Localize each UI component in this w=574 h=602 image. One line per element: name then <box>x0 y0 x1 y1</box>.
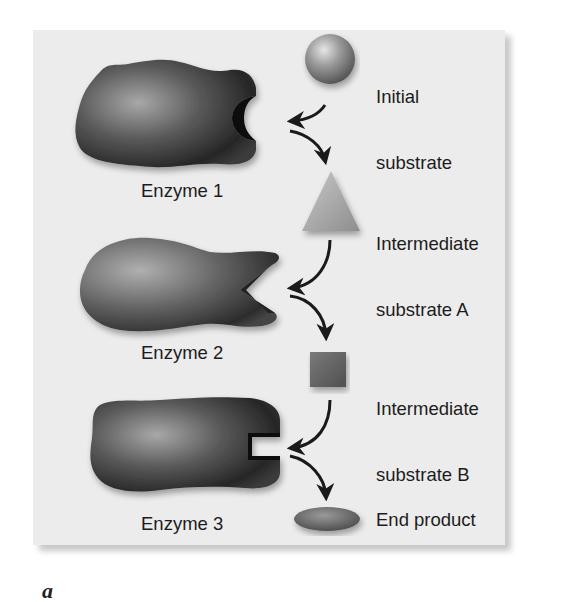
end-product-ellipse <box>294 507 360 531</box>
label-line-2: substrate <box>376 152 452 174</box>
label-line-1: Intermediate <box>376 398 479 420</box>
enzyme-3-shape <box>90 397 280 491</box>
enzyme-1-label: Enzyme 1 <box>141 180 223 202</box>
initial-substrate-sphere <box>305 34 355 84</box>
enzyme-2-shape <box>80 238 279 331</box>
label-line-1: Intermediate <box>376 233 479 255</box>
intermediate-substrate-a-triangle <box>302 171 360 231</box>
intermediate-substrate-b-square <box>310 352 346 387</box>
end-product-label: End product <box>376 509 476 531</box>
initial-substrate-label: Initial substrate <box>376 42 452 196</box>
label-line-2: substrate B <box>376 464 479 486</box>
enzyme-1-shape <box>75 60 256 167</box>
arrows-step-1 <box>290 105 325 160</box>
intermediate-substrate-b-label: Intermediate substrate B <box>376 354 479 508</box>
arrows-step-3 <box>290 400 330 496</box>
enzyme-2-label: Enzyme 2 <box>141 342 223 364</box>
figure-panel-letter: a <box>42 578 53 602</box>
intermediate-substrate-a-label: Intermediate substrate A <box>376 189 479 343</box>
label-line-1: Initial <box>376 86 452 108</box>
enzyme-3-label: Enzyme 3 <box>141 513 223 535</box>
label-line-2: substrate A <box>376 299 479 321</box>
arrows-step-2 <box>290 240 330 336</box>
